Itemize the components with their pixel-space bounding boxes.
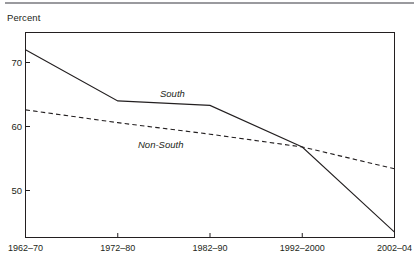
- series-label-non-south: Non-South: [138, 139, 183, 150]
- series-label-south: South: [160, 88, 185, 99]
- x-tick-label-2: 1982–90: [192, 243, 227, 253]
- series-line-south: [26, 50, 395, 232]
- x-axis-ticks: [118, 233, 303, 238]
- chart-figure: Percent 706050 1962–701972–801982–901992…: [0, 0, 417, 262]
- series-line-non-south: [26, 110, 395, 169]
- x-tick-label-0: 1962–70: [8, 243, 43, 253]
- plot-frame: [26, 33, 395, 238]
- plot-area: [0, 0, 417, 262]
- x-tick-label-3: 1992–2000: [280, 243, 325, 253]
- x-tick-label-1: 1972–80: [100, 243, 135, 253]
- y-tick-label-50: 50: [0, 185, 22, 196]
- x-tick-label-4: 2002–04: [377, 243, 412, 253]
- y-tick-label-60: 60: [0, 121, 22, 132]
- y-tick-label-70: 70: [0, 57, 22, 68]
- y-axis-ticks: [26, 63, 31, 191]
